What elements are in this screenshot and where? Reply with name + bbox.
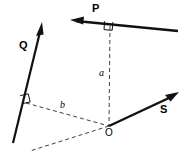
label-vector-q: Q — [19, 40, 28, 51]
moment-arm-b-line — [26, 103, 109, 126]
label-vector-s: S — [160, 104, 167, 115]
arrowhead-q-icon — [36, 22, 44, 36]
label-distance-b: b — [60, 100, 65, 110]
label-distance-a: a — [99, 68, 104, 78]
moment-arm-a-line — [109, 26, 110, 126]
vector-diagram-figure: P Q S a b O — [0, 0, 191, 164]
label-origin: O — [105, 128, 113, 138]
arrowhead-p-icon — [70, 17, 84, 25]
dashed-extension-s-line — [30, 126, 109, 151]
diagram-canvas — [0, 0, 191, 164]
force-line-p — [76, 21, 178, 31]
right-angle-marker-p — [104, 21, 113, 30]
label-vector-p: P — [92, 3, 99, 14]
